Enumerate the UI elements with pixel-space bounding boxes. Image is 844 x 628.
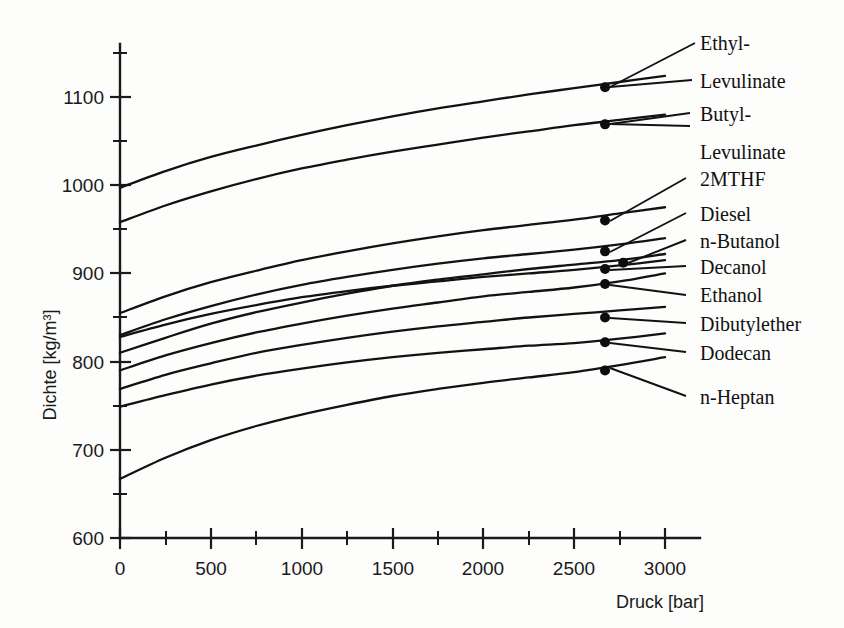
x-tick-label-2000: 2000: [462, 558, 504, 579]
curve-2mthf: [120, 207, 665, 313]
marker-decanol: [600, 264, 610, 274]
series-label-n-heptan: n-Heptan: [700, 386, 774, 409]
leader-butyl-levulinate-b: [610, 124, 690, 126]
density-pressure-chart: 600 700 800 900 1000 1100: [0, 0, 844, 628]
x-axis-title: Druck [bar]: [616, 592, 704, 612]
series-label-decanol: Decanol: [700, 256, 767, 278]
series-label-dibutylether: Dibutylether: [700, 313, 801, 336]
curve-ethanol: [120, 273, 665, 370]
series-label-diesel: Diesel: [700, 203, 752, 225]
y-tick-label-600: 600: [72, 528, 104, 549]
marker-ethyl-levulinate: [600, 82, 610, 92]
y-tick-labels: 600 700 800 900 1000 1100: [62, 87, 104, 549]
leader-diesel: [610, 213, 686, 252]
marker-ethanol: [600, 279, 610, 289]
series-labels: Ethyl- Levulinate Butyl- Levulinate 2MTH…: [700, 32, 801, 409]
x-tick-label-1000: 1000: [281, 558, 323, 579]
marker-n-heptan: [600, 365, 610, 375]
curve-dibutylether: [120, 307, 665, 389]
marker-2mthf: [600, 215, 610, 225]
x-tick-label-1500: 1500: [372, 558, 414, 579]
leader-dibutylether: [610, 318, 686, 323]
y-tick-label-700: 700: [72, 440, 104, 461]
leader-n-heptan: [610, 368, 686, 396]
series-label-butyl-levulinate-line1: Butyl-: [700, 103, 751, 126]
x-tick-label-500: 500: [195, 558, 227, 579]
marker-dodecan: [600, 337, 610, 347]
x-tick-label-2500: 2500: [553, 558, 595, 579]
x-tick-label-3000: 3000: [644, 558, 686, 579]
series-label-ethyl-levulinate-line2: Levulinate: [700, 70, 786, 92]
curves-layer: [120, 76, 665, 479]
axis-group: [120, 44, 700, 538]
leader-ethanol: [610, 285, 686, 295]
series-label-ethanol: Ethanol: [700, 284, 763, 306]
series-label-ethyl-levulinate-line1: Ethyl-: [700, 32, 750, 55]
leader-n-butanol: [628, 240, 686, 263]
markers-layer: [600, 82, 628, 375]
marker-dibutylether: [600, 313, 610, 323]
series-label-2mthf: 2MTHF: [700, 168, 766, 190]
leader-2mthf: [610, 178, 686, 221]
y-axis-title: Dichte [kg/m³]: [40, 309, 60, 420]
series-label-n-butanol: n-Butanol: [700, 230, 780, 252]
leader-dodecan: [610, 343, 686, 352]
marker-butyl-levulinate: [600, 119, 610, 129]
y-tick-label-1000: 1000: [62, 175, 104, 196]
y-tick-label-1100: 1100: [63, 87, 104, 108]
curve-ethyl-levulinate: [120, 76, 665, 188]
y-tick-label-800: 800: [72, 352, 104, 373]
marker-n-butanol: [618, 258, 628, 268]
series-label-dodecan: Dodecan: [700, 342, 771, 364]
curve-butyl-levulinate: [120, 115, 665, 223]
y-tick-label-900: 900: [72, 263, 104, 284]
x-tick-labels: 0 500 1000 1500 2000 2500 3000: [115, 558, 686, 579]
curve-n-heptan: [120, 357, 665, 479]
marker-diesel: [600, 246, 610, 256]
series-label-butyl-levulinate-line2: Levulinate: [700, 141, 786, 163]
chart-svg: 600 700 800 900 1000 1100: [0, 0, 844, 628]
x-tick-label-0: 0: [115, 558, 126, 579]
leader-lines: [610, 43, 695, 396]
